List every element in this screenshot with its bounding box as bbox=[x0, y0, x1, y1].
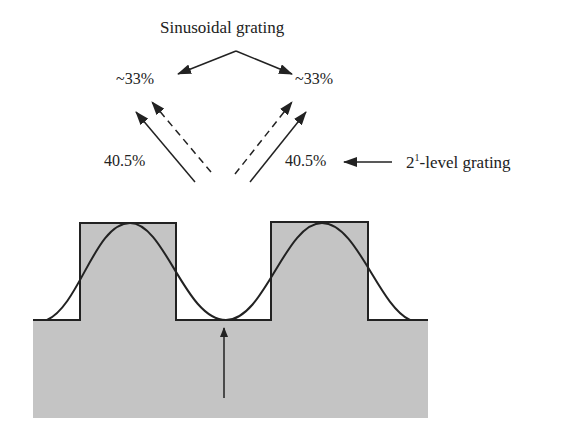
right-sine-label: ~33% bbox=[295, 70, 333, 88]
grating-diagram bbox=[0, 0, 565, 443]
binary-grating-suffix: -level grating bbox=[420, 153, 511, 172]
left-binary-arrow bbox=[136, 112, 195, 182]
binary-grating-base: 2 bbox=[406, 153, 415, 172]
right-binary-arrow bbox=[250, 112, 306, 182]
diagram-title: Sinusoidal grating bbox=[160, 18, 284, 38]
left-sine-arrow bbox=[152, 102, 211, 172]
right-sine-arrow bbox=[235, 102, 292, 174]
left-sine-label: ~33% bbox=[116, 70, 154, 88]
left-binary-label: 40.5% bbox=[104, 152, 145, 170]
binary-grating-label: 21-level grating bbox=[406, 152, 511, 173]
title-arrow-left bbox=[178, 51, 236, 74]
right-binary-label: 40.5% bbox=[285, 152, 326, 170]
title-arrow-right bbox=[236, 51, 292, 74]
